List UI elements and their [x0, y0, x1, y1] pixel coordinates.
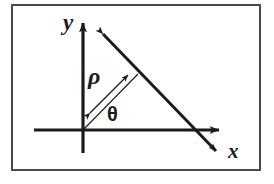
figure-page: y x ρ θ	[0, 0, 274, 184]
y-axis-label: y	[63, 11, 73, 34]
x-axis-label: x	[228, 141, 239, 162]
theta-label: θ	[107, 104, 118, 124]
rho-label: ρ	[88, 64, 100, 88]
